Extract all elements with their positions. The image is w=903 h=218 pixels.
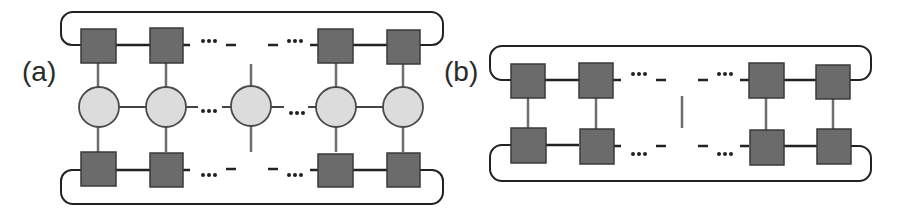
panel-a <box>61 12 443 204</box>
square-tensor <box>150 28 183 63</box>
circle-tensor <box>316 87 356 127</box>
circle-tensor <box>146 87 186 127</box>
square-tensor <box>387 30 420 64</box>
square-tensor <box>579 63 613 98</box>
square-tensor <box>511 64 545 98</box>
square-tensor <box>750 130 784 165</box>
square-tensor <box>749 63 784 98</box>
top-boundary-loop <box>61 12 443 45</box>
top-boundary-loop <box>490 46 871 80</box>
vertical-bonds <box>528 96 833 130</box>
tensor-network-diagram <box>0 0 903 218</box>
square-tensor <box>81 29 116 63</box>
square-tensor <box>81 152 116 186</box>
square-tensor <box>816 65 850 99</box>
square-tensor <box>318 29 353 63</box>
circle-tensor-open-legs <box>231 86 271 126</box>
bottom-boundary-loop <box>61 170 443 204</box>
square-tensor <box>318 154 353 187</box>
bottom-boundary-loop <box>490 145 871 181</box>
square-tensor <box>580 129 614 164</box>
square-tensor <box>511 128 546 163</box>
circle-tensor <box>383 87 423 127</box>
square-tensor <box>817 129 851 164</box>
square-tensor <box>150 153 183 187</box>
square-tensor <box>387 153 420 187</box>
panel-b <box>490 46 871 181</box>
circle-tensor <box>79 87 119 127</box>
